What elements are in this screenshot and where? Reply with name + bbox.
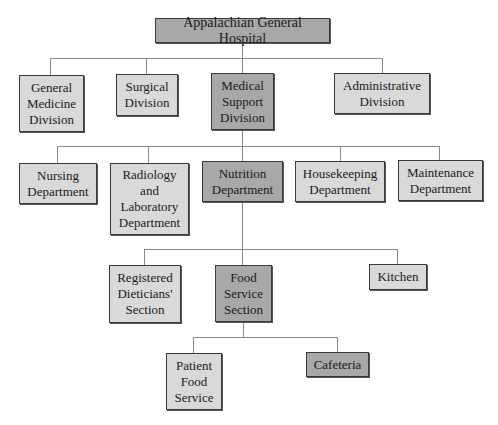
connector-nutrition-down <box>242 202 243 265</box>
connector-kitchen <box>397 249 398 264</box>
org-node-nursing: Nursing Department <box>19 163 97 204</box>
org-node-nutrition: Nutrition Department <box>202 161 283 202</box>
node-label: Registered Dieticians' Section <box>117 270 173 318</box>
org-node-registered-dieticians: Registered Dieticians' Section <box>109 265 181 323</box>
connector-maintenance <box>439 146 440 160</box>
org-node-patient-food-service: Patient Food Service <box>166 353 222 410</box>
connector-nursing <box>57 146 58 163</box>
connector-cafeteria <box>337 337 338 352</box>
org-node-food-service: Food Service Section <box>215 265 272 322</box>
node-label: Nursing Department <box>27 168 88 200</box>
node-label: Administrative Division <box>343 78 421 110</box>
org-node-medical-support: Medical Support Division <box>211 73 274 130</box>
connector-level2-bar <box>57 146 439 147</box>
connector-surgical <box>146 58 147 74</box>
node-label: Cafeteria <box>314 357 362 373</box>
connector-patient-food-service <box>193 337 194 353</box>
connector-level4-bar <box>193 337 337 338</box>
connector-administrative <box>382 58 383 73</box>
node-label: Housekeeping Department <box>303 166 377 198</box>
node-label: Maintenance Department <box>407 165 474 197</box>
node-label: Appalachian General Hospital <box>158 15 327 47</box>
connector-level3-bar <box>144 249 397 250</box>
org-node-maintenance: Maintenance Department <box>398 160 483 201</box>
org-node-general-medicine: General Medicine Division <box>19 75 84 132</box>
org-node-surgical: Surgical Division <box>116 74 178 116</box>
org-node-administrative: Administrative Division <box>334 73 430 114</box>
node-label: Surgical Division <box>125 79 170 111</box>
node-label: Nutrition Department <box>212 166 273 198</box>
connector-medical-support <box>242 58 243 73</box>
org-node-housekeeping: Housekeeping Department <box>295 161 385 202</box>
connector-registered-dieticians <box>144 249 145 265</box>
node-label: Medical Support Division <box>220 78 265 126</box>
connector-general-medicine <box>50 58 51 75</box>
org-node-radiology: Radiology and Laboratory Department <box>110 163 189 235</box>
node-label: Patient Food Service <box>175 358 214 406</box>
connector-radiology <box>148 146 149 163</box>
org-node-root: Appalachian General Hospital <box>155 18 330 43</box>
connector-food-service-down <box>243 322 244 337</box>
connector-housekeeping <box>340 146 341 161</box>
org-node-kitchen: Kitchen <box>369 264 427 290</box>
node-label: Food Service Section <box>224 270 263 318</box>
node-label: General Medicine Division <box>27 80 76 128</box>
node-label: Kitchen <box>377 269 418 285</box>
org-node-cafeteria: Cafeteria <box>306 352 369 377</box>
node-label: Radiology and Laboratory Department <box>119 167 180 231</box>
connector-level1-bar <box>50 58 382 59</box>
